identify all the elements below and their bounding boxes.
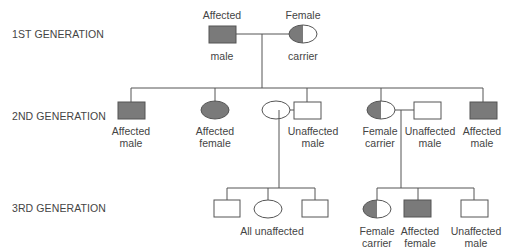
gen1-couple: Affected male Female carrier xyxy=(203,9,321,88)
caption: female xyxy=(404,237,436,249)
caption: female xyxy=(199,137,231,149)
caption: male xyxy=(120,137,143,149)
caption: male xyxy=(419,137,442,149)
gen3-carrier-female-symbol xyxy=(363,200,391,218)
gen1-female-caption-top: Female xyxy=(285,9,320,21)
gen3-affected-symbol xyxy=(404,200,431,217)
caption: Affected xyxy=(112,125,150,137)
gen1-male-caption-bottom: male xyxy=(211,50,234,62)
gen3-left-caption: All unaffected xyxy=(240,225,304,237)
caption: Affected xyxy=(196,125,234,137)
gen2-unaffected-male-symbol xyxy=(294,102,321,119)
gen2-affected-female-symbol xyxy=(201,101,229,119)
caption: Female xyxy=(362,125,397,137)
gen1-affected-male-symbol xyxy=(209,26,236,43)
caption: Unaffected xyxy=(405,125,456,137)
caption: Unaffected xyxy=(451,225,502,237)
gen1-male-caption-top: Affected xyxy=(203,9,241,21)
pedigree-diagram: 1ST GENERATION 2ND GENERATION 3RD GENERA… xyxy=(0,0,506,252)
generation-2-label: 2ND GENERATION xyxy=(12,110,106,122)
gen1-carrier-female-symbol xyxy=(289,25,317,43)
gen2-affected-male-symbol xyxy=(470,102,497,119)
gen2-carrier-female-symbol xyxy=(367,101,395,119)
gen2-unaffected-female-spouse-symbol xyxy=(262,101,290,119)
caption: Affected xyxy=(401,225,439,237)
gen3-unaffected-male-symbol xyxy=(461,200,488,217)
gen2-affected-male-symbol xyxy=(118,102,145,119)
caption: carrier xyxy=(365,137,395,149)
generation-1-label: 1ST GENERATION xyxy=(12,28,104,40)
caption: Affected xyxy=(463,125,501,137)
caption: male xyxy=(465,237,488,249)
gen3-unaffected-male-symbol xyxy=(214,200,240,217)
gen3-unaffected-female-symbol xyxy=(254,200,282,218)
generation-3-label: 3RD GENERATION xyxy=(12,202,106,214)
caption: male xyxy=(302,137,325,149)
caption: Unaffected xyxy=(288,125,339,137)
gen1-female-caption-bottom: carrier xyxy=(288,50,318,62)
caption: carrier xyxy=(362,237,392,249)
caption: male xyxy=(471,137,494,149)
caption: Female xyxy=(359,225,394,237)
gen3-unaffected-male-symbol xyxy=(302,200,328,217)
gen2-unaffected-male-spouse-symbol xyxy=(414,102,441,119)
